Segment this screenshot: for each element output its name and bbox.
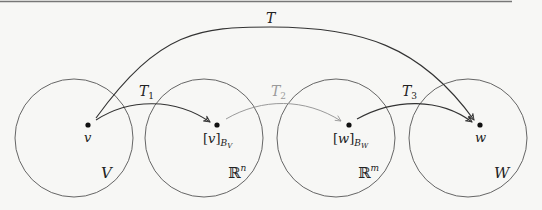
- label-set-V: V: [101, 164, 114, 182]
- arrow-T1: [96, 104, 210, 122]
- label-T3: T3: [402, 83, 417, 101]
- label-point-w: w: [475, 130, 486, 145]
- points: [85, 122, 482, 127]
- label-T2: T2: [271, 83, 286, 101]
- point-w: [477, 122, 482, 127]
- arrow-T: [96, 27, 474, 120]
- point-v: [85, 122, 90, 127]
- label-T1: T1: [139, 83, 154, 101]
- set-V-circle: [15, 79, 133, 197]
- label-point-w-coord: [w]BW: [333, 131, 369, 150]
- label-set-Rn: ℝn: [228, 163, 246, 182]
- point-w-coord: [346, 122, 351, 127]
- arrow-T2: [226, 103, 341, 121]
- label-set-Rm: ℝm: [358, 163, 379, 182]
- label-set-W: W: [494, 164, 511, 182]
- label-point-v: v: [84, 130, 92, 145]
- label-T: T: [266, 10, 277, 26]
- label-point-v-coord: [v]BV: [203, 131, 233, 150]
- linear-map-diagram: T T1 T2 T3 v [v]BV [w]BW w V ℝn ℝm W: [0, 0, 542, 210]
- point-v-coord: [214, 122, 219, 127]
